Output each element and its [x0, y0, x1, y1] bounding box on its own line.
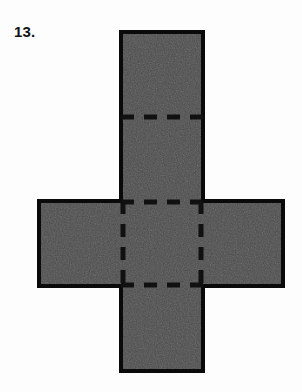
problem-number-label: 13.	[14, 24, 35, 39]
cube-net-figure	[0, 0, 302, 392]
net-body-group	[39, 32, 283, 371]
figure-canvas: 13.	[0, 0, 302, 392]
